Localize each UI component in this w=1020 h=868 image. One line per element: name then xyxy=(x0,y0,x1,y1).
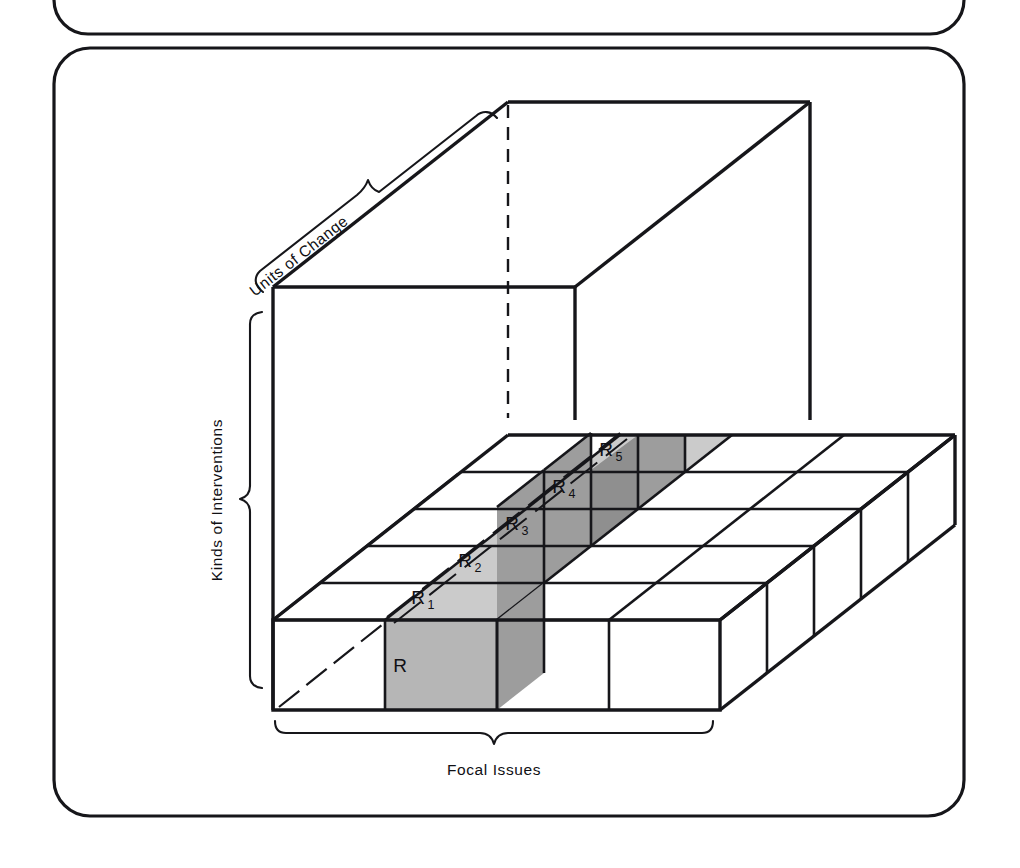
svg-text:1: 1 xyxy=(428,598,435,612)
upper-panel-partial xyxy=(54,0,964,34)
axis-label-focal-issues: Focal Issues xyxy=(447,761,541,778)
svg-text:R: R xyxy=(552,476,566,497)
svg-text:R: R xyxy=(458,550,472,571)
svg-text:4: 4 xyxy=(569,487,576,501)
svg-text:3: 3 xyxy=(522,524,529,538)
svg-text:R: R xyxy=(505,513,519,534)
svg-text:R: R xyxy=(599,439,613,460)
cell-label-R: R xyxy=(393,655,407,676)
axis-label-kinds-of-interventions: Kinds of Interventions xyxy=(208,419,225,581)
diagram-canvas: Units of Change Kinds of Interventions F… xyxy=(0,0,1020,868)
main-figure-panel xyxy=(54,48,964,816)
svg-text:2: 2 xyxy=(475,561,482,575)
svg-text:5: 5 xyxy=(616,450,623,464)
figure-root: Units of Change Kinds of Interventions F… xyxy=(0,0,1020,868)
svg-text:R: R xyxy=(411,587,425,608)
